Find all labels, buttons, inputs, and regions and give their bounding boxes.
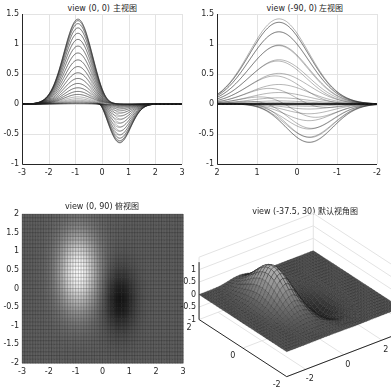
tick-label: 0 bbox=[100, 368, 105, 376]
chart-front-view: view (0, 0) 主视图 -3-2-10123-1-0.500.511.5 bbox=[0, 0, 195, 195]
tick-label: -2 bbox=[11, 359, 19, 367]
tick-label: 1 bbox=[127, 368, 132, 376]
tick-label: -2 bbox=[273, 381, 281, 389]
tick-label: 0 bbox=[14, 100, 19, 108]
tick-label: -1 bbox=[11, 322, 19, 330]
tick-label: 1 bbox=[209, 40, 214, 48]
tick-label: 0.5 bbox=[6, 266, 19, 274]
tick-label: 1 bbox=[126, 169, 131, 177]
tick-label: 2 bbox=[214, 169, 219, 177]
tick-label: -1 bbox=[72, 368, 80, 376]
tick-label: 2 bbox=[154, 368, 159, 376]
tick-label: -1 bbox=[11, 160, 19, 168]
surface-plot bbox=[0, 0, 195, 195]
tick-label: 0 bbox=[191, 291, 196, 299]
tick-label: 2 bbox=[14, 210, 19, 218]
tick-label: 1 bbox=[14, 40, 19, 48]
surface3d-plot bbox=[195, 195, 391, 390]
tick-label: 1 bbox=[254, 169, 259, 177]
tick-label: 1 bbox=[191, 266, 196, 274]
tick-label: 0 bbox=[230, 352, 235, 360]
tick-label: -0.5 bbox=[3, 303, 19, 311]
surface-plot bbox=[195, 0, 391, 195]
tick-label: -1.5 bbox=[3, 340, 19, 348]
tick-label: -2 bbox=[45, 368, 53, 376]
chart-left-view: view (-90, 0) 左视图 210-1-2-1-0.500.511.5 bbox=[195, 0, 391, 195]
tick-label: 1.5 bbox=[201, 10, 214, 18]
tick-label: 0 bbox=[209, 100, 214, 108]
tick-label: -0.5 bbox=[198, 130, 214, 138]
tick-label: 0 bbox=[14, 285, 19, 293]
tick-label: 3 bbox=[179, 169, 184, 177]
tick-label: -3 bbox=[18, 169, 26, 177]
chart-3d-view: view (-37.5, 30) 默认视角图 -1-0.500.5120-2-2… bbox=[195, 195, 391, 390]
tick-label: -2 bbox=[306, 375, 314, 383]
tick-label: 1 bbox=[14, 247, 19, 255]
tick-label: 2 bbox=[153, 169, 158, 177]
tick-label: -1 bbox=[71, 169, 79, 177]
tick-label: -3 bbox=[18, 368, 26, 376]
tick-label: 2 bbox=[383, 346, 388, 354]
tick-label: 0.5 bbox=[183, 278, 196, 286]
tick-label: 3 bbox=[180, 368, 185, 376]
tick-label: 0.5 bbox=[201, 70, 214, 78]
chart-top-view: view (0, 90) 俯视图 -3-2-10123-2-1.5-1-0.50… bbox=[0, 195, 195, 390]
tick-label: 0 bbox=[294, 169, 299, 177]
tick-label: -2 bbox=[45, 169, 53, 177]
tick-label: 0.5 bbox=[6, 70, 19, 78]
tick-label: -0.5 bbox=[3, 130, 19, 138]
tick-label: 0 bbox=[99, 169, 104, 177]
tick-label: -1 bbox=[206, 160, 214, 168]
tick-label: 1.5 bbox=[6, 10, 19, 18]
tick-label: 1.5 bbox=[6, 229, 19, 237]
tick-label: -2 bbox=[373, 169, 381, 177]
tick-label: 0 bbox=[345, 361, 350, 369]
tick-label: 2 bbox=[187, 324, 192, 332]
tick-label: -1 bbox=[333, 169, 341, 177]
tick-label: -0.5 bbox=[180, 303, 196, 311]
heatmap-plot bbox=[0, 195, 195, 390]
